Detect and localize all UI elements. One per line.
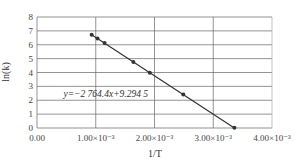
data-point: [181, 93, 185, 97]
grid-lines: [37, 17, 272, 128]
x-tick-label: 0.00: [29, 133, 45, 143]
data-point: [148, 71, 152, 75]
y-tick-label: 2: [29, 95, 34, 105]
x-tick-label: 2.00×10⁻³: [136, 133, 174, 143]
data-point: [232, 126, 236, 130]
x-tick-label: 3.00×10⁻³: [195, 133, 233, 143]
data-point: [96, 37, 100, 41]
data-point: [90, 33, 94, 37]
x-axis-title: 1/T: [148, 148, 162, 159]
y-tick-label: 1: [29, 109, 34, 119]
trendline-equation: y=−2 764.4x+9.294 5: [62, 89, 148, 99]
data-point: [103, 41, 107, 45]
x-axis-ticks: 0.001.00×10⁻³2.00×10⁻³3.00×10⁻³4.00×10⁻³: [29, 133, 291, 143]
chart: 012345678 0.001.00×10⁻³2.00×10⁻³3.00×10⁻…: [0, 0, 307, 162]
y-axis-title: ln(k): [0, 62, 12, 81]
y-tick-label: 0: [29, 123, 34, 133]
y-tick-label: 7: [29, 26, 34, 36]
y-axis-ticks: 012345678: [29, 12, 34, 133]
x-tick-label: 1.00×10⁻³: [77, 133, 115, 143]
y-tick-label: 3: [29, 81, 34, 91]
y-tick-label: 8: [29, 12, 34, 22]
data-point: [131, 60, 135, 64]
x-tick-label: 4.00×10⁻³: [253, 133, 291, 143]
y-tick-label: 4: [29, 68, 34, 78]
y-tick-label: 6: [29, 40, 34, 50]
y-tick-label: 5: [29, 54, 34, 64]
